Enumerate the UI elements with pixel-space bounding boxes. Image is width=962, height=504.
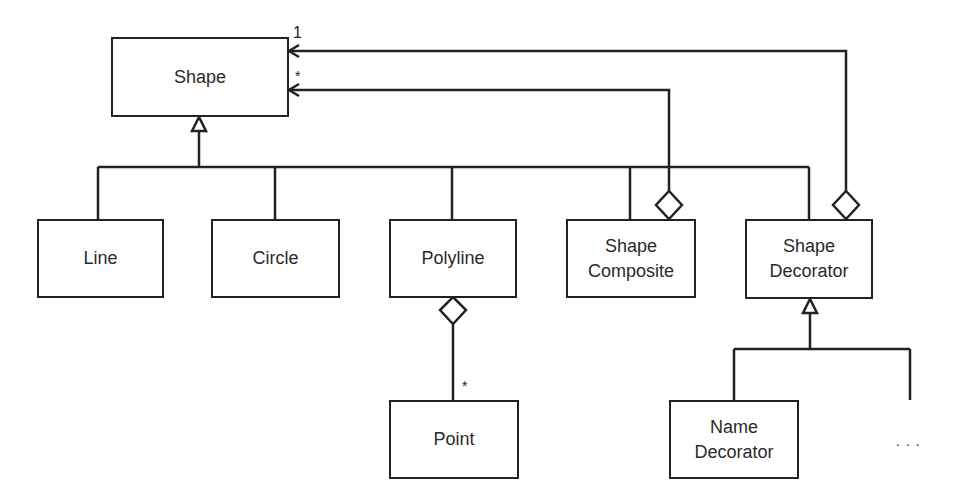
class-name-line2: Decorator bbox=[769, 259, 848, 284]
class-name-line1: Shape bbox=[605, 234, 657, 259]
class-shape-decorator: Shape Decorator bbox=[745, 219, 873, 299]
class-name: Circle bbox=[252, 246, 298, 271]
class-name: Polyline bbox=[421, 246, 484, 271]
class-name: Line bbox=[83, 246, 117, 271]
generalization-arrow-decorator bbox=[803, 299, 817, 313]
class-name-line2: Decorator bbox=[694, 440, 773, 465]
class-name-line1: Name bbox=[710, 415, 758, 440]
class-circle: Circle bbox=[211, 219, 340, 298]
class-name-line2: Composite bbox=[588, 259, 674, 284]
class-name-decorator: Name Decorator bbox=[669, 400, 799, 479]
class-name: Point bbox=[433, 427, 474, 452]
multiplicity-point: * bbox=[462, 378, 467, 394]
aggregation-diamond-decorator bbox=[833, 191, 859, 219]
multiplicity-composite: * bbox=[295, 68, 300, 84]
class-name: Shape bbox=[174, 65, 226, 90]
class-name-line1: Shape bbox=[783, 234, 835, 259]
class-polyline: Polyline bbox=[389, 219, 517, 298]
aggregation-diamond-composite bbox=[656, 191, 682, 219]
generalization-arrow-shape bbox=[192, 117, 206, 131]
class-line: Line bbox=[37, 219, 164, 298]
class-shape-composite: Shape Composite bbox=[566, 219, 696, 298]
aggregation-diamond-polyline bbox=[440, 297, 466, 324]
multiplicity-decorator: 1 bbox=[293, 24, 302, 42]
more-subclasses-ellipsis: ... bbox=[896, 433, 926, 449]
class-point: Point bbox=[389, 400, 519, 479]
class-shape: Shape bbox=[111, 37, 289, 117]
